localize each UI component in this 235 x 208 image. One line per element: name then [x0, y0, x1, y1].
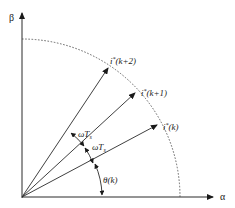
alpha-axis-label: α: [220, 191, 226, 202]
label-omega-ts-1: ωTs: [92, 142, 106, 153]
label-i-star-k-plus-2: i*(k+2): [110, 56, 136, 66]
label-i-star-k: i*(k): [163, 122, 179, 132]
reference-circle-arc: [22, 39, 180, 197]
space-vector-diagram: β α i*(k) i*(k+1) i*(k+2) ωTs ωTs θ(k): [0, 0, 235, 208]
label-omega-ts-2: ωTs: [78, 129, 92, 140]
label-i-star-k-plus-1: i*(k+1): [141, 88, 167, 98]
theta-k-arc: [95, 164, 102, 195]
vector-i-star-k-plus-1: [22, 93, 135, 197]
beta-axis-label: β: [9, 12, 14, 23]
vector-i-star-k-plus-2: [22, 68, 108, 197]
label-theta-k: θ(k): [103, 175, 117, 185]
